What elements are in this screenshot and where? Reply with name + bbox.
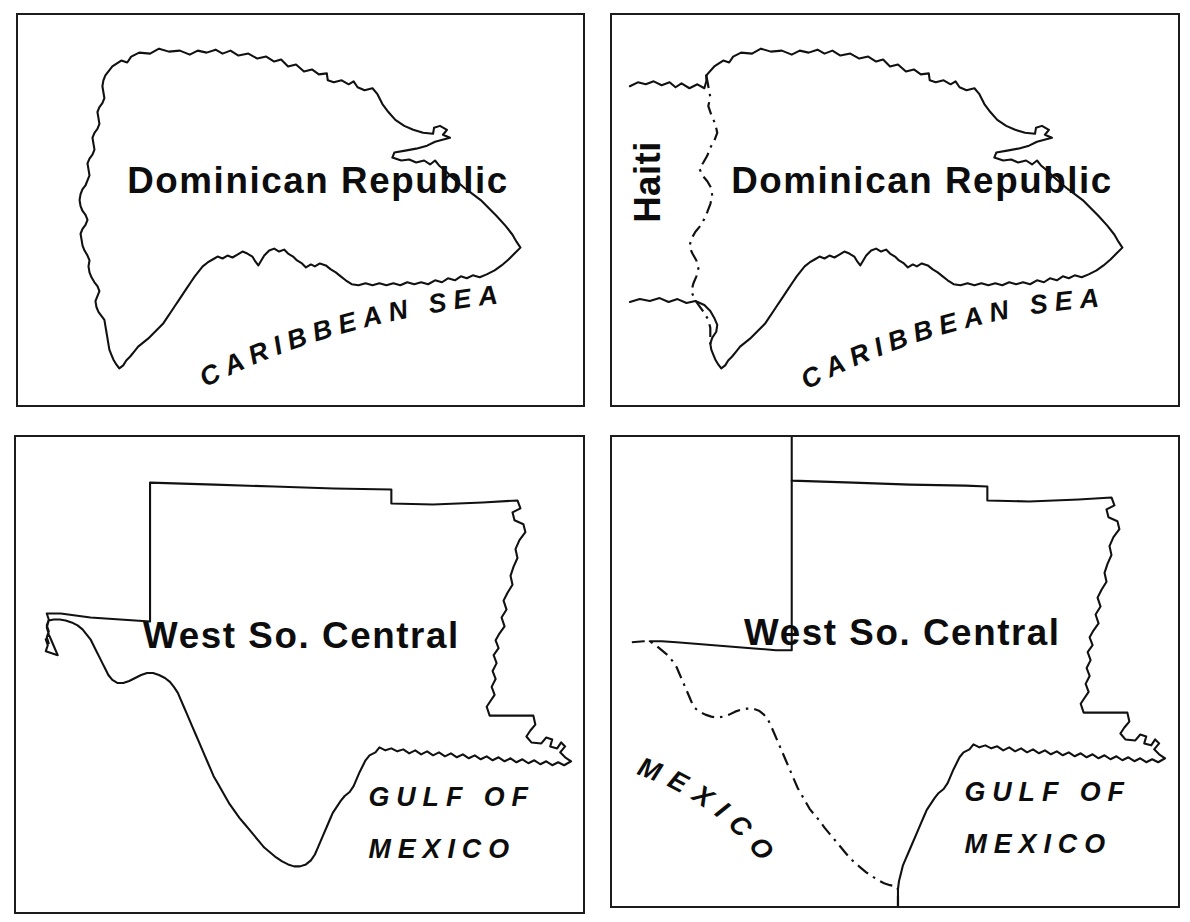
map-canvas-dr-context: CARIBBEAN SEA Dominican Republic Haiti [612,15,1178,405]
figure-root: CARIBBEAN SEA Dominican Republic CARIBBE… [0,0,1190,922]
map-canvas-dr-plain: CARIBBEAN SEA Dominican Republic [18,15,583,405]
coastline-dominican-republic [80,49,521,369]
region-label-dominican-republic: Dominican Republic [731,160,1113,201]
map-panel-west-south-central-plain: West So. Central GULF OF MEXICO [14,435,585,914]
region-label-dominican-republic: Dominican Republic [127,160,509,201]
map-panel-west-south-central-context: MEXICO West So. Central GULF OF MEXICO [610,435,1180,908]
neighbor-label-mexico: MEXICO [634,751,786,873]
water-label-gulf-of: GULF OF [965,777,1131,807]
water-label-gulf-of: GULF OF [369,782,535,812]
region-label-west-so-central: West So. Central [143,615,460,656]
water-label-caribbean-sea: CARIBBEAN SEA [194,279,506,393]
water-label-mexico: MEXICO [965,829,1112,859]
map-canvas-wsc-context: MEXICO West So. Central GULF OF MEXICO [612,437,1178,906]
political-border-haiti-dominican-republic [689,75,717,343]
neighbor-label-haiti: Haiti [627,141,668,223]
coastline-haiti [630,75,706,88]
coastline-haiti-south [630,298,717,344]
map-panel-dominican-republic-context: CARIBBEAN SEA Dominican Republic Haiti [610,13,1180,407]
water-label-caribbean-sea: CARIBBEAN SEA [796,282,1107,395]
water-label-mexico: MEXICO [369,834,516,864]
map-canvas-wsc-plain: West So. Central GULF OF MEXICO [16,437,583,912]
region-label-west-so-central: West So. Central [744,612,1061,653]
map-panel-dominican-republic-plain: CARIBBEAN SEA Dominican Republic [16,13,585,407]
